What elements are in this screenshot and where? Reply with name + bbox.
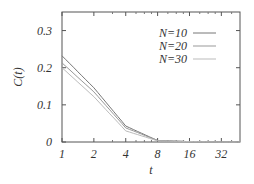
- y-tick-label: 0.3: [37, 24, 52, 38]
- y-axis-label: C(t): [11, 67, 25, 86]
- x-axis-label: t: [149, 163, 153, 177]
- x-tick-label: 4: [123, 147, 129, 161]
- x-tick-label: 2: [91, 147, 97, 161]
- y-tick-label: 0.2: [37, 61, 52, 75]
- x-tick-label: 32: [214, 147, 227, 161]
- x-tick-label: 1: [59, 147, 65, 161]
- plot-frame: [62, 12, 240, 142]
- y-tick-label: 0: [46, 135, 52, 149]
- series-line-n-20: [62, 63, 240, 142]
- y-tick-label: 0.1: [37, 98, 52, 112]
- line-chart: 1248163200.10.20.3tC(t)N=10N=20N=30: [0, 0, 254, 184]
- series-line-n-30: [62, 68, 240, 142]
- x-tick-label: 16: [183, 147, 195, 161]
- legend-label: N=20: [158, 39, 187, 53]
- chart: 1248163200.10.20.3tC(t)N=10N=20N=30: [0, 0, 254, 184]
- legend-label: N=30: [158, 52, 187, 66]
- legend-label: N=10: [158, 26, 187, 40]
- series-line-n-10: [62, 56, 240, 142]
- x-tick-label: 8: [155, 147, 161, 161]
